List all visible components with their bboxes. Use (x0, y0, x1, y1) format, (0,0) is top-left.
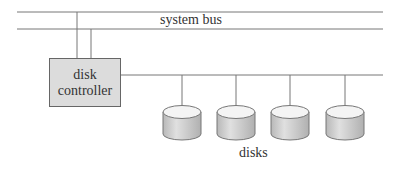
disk-3 (271, 75, 309, 140)
disk-4 (326, 75, 364, 140)
disk-2 (217, 75, 255, 140)
system-bus-label: system bus (160, 12, 222, 27)
controller-label-line1: disk (73, 67, 96, 83)
controller-label-line2: controller (58, 83, 112, 99)
disk-1 (163, 75, 201, 140)
disk-controller-box: disk controller (49, 58, 121, 107)
disks-label: disks (239, 145, 268, 160)
